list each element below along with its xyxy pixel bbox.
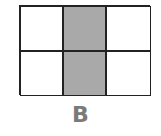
cell-r2-c1 [20,51,63,96]
cell-r1-c1 [20,6,63,51]
cell-r1-c2-shaded [63,6,106,51]
rectangle-grid [19,5,150,95]
figure-label: B [0,102,161,127]
cell-r2-c3 [106,51,151,96]
cell-r1-c3 [106,6,151,51]
cell-r2-c2-shaded [63,51,106,96]
